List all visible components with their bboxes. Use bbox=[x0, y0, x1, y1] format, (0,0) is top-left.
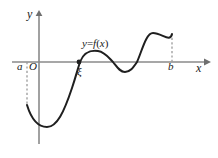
root-point-marker bbox=[77, 60, 82, 65]
x-axis-label: x bbox=[196, 62, 201, 74]
curve-equation-close-paren: ) bbox=[105, 37, 109, 49]
function-graph-figure: y x O a b ξ y=f(x) bbox=[0, 0, 218, 158]
endpoint-b-label: b bbox=[168, 61, 174, 72]
x-axis-arrow-icon bbox=[204, 58, 211, 65]
graph-canvas bbox=[0, 0, 218, 158]
origin-label: O bbox=[29, 61, 37, 72]
y-axis-label: y bbox=[27, 8, 32, 20]
root-xi-label: ξ bbox=[77, 66, 82, 77]
curve-equation-label: y=f(x) bbox=[82, 38, 108, 49]
y-axis-arrow-icon bbox=[36, 10, 43, 16]
endpoint-a-label: a bbox=[17, 61, 23, 72]
